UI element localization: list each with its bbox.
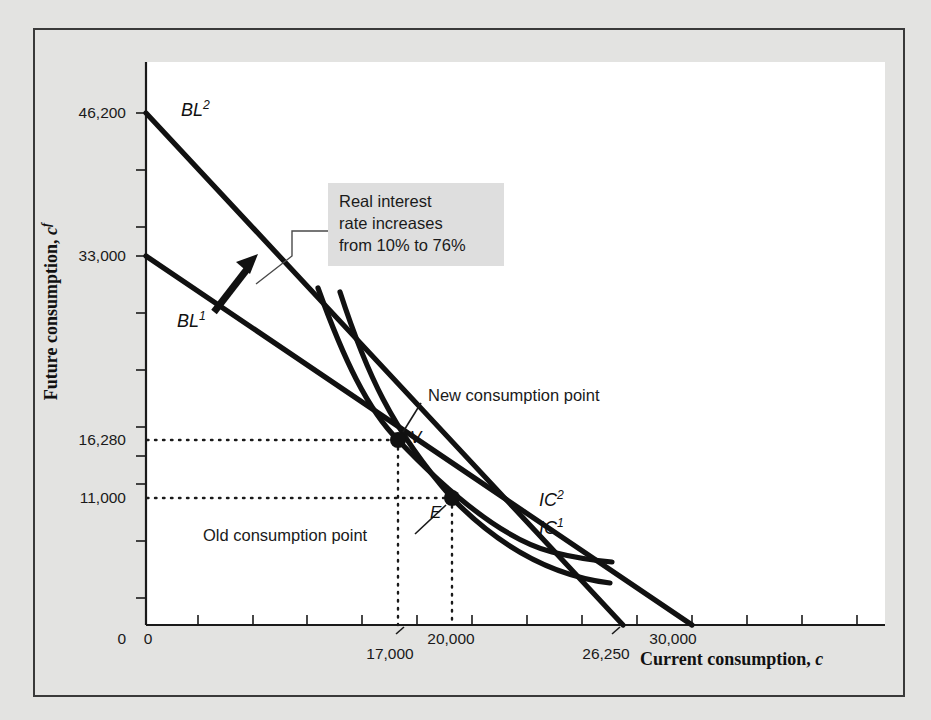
ic1-superscript: 1 <box>557 516 564 530</box>
point-label-v: V <box>410 428 421 448</box>
y-tick-label-33000: 33,000 <box>36 247 126 265</box>
point-marker-e <box>444 490 460 506</box>
annotation-line-3: from 10% to 76% <box>339 235 494 257</box>
caption-old-consumption-point: Old consumption point <box>203 526 367 545</box>
y-axis-ticks <box>136 113 146 598</box>
y-tick-label-16280: 16,280 <box>36 431 126 449</box>
point-label-e: E <box>430 503 441 523</box>
y-axis-title: Future consumption, cf <box>39 202 62 422</box>
point-marker-v <box>390 432 406 448</box>
annotation-line-1: Real interest <box>339 191 494 213</box>
ic2-base: IC <box>539 490 557 510</box>
indifference-curve-label-ic1: IC1 <box>539 516 564 539</box>
figure-container: Future consumption, cf Current consumpti… <box>0 0 931 720</box>
ic2-superscript: 2 <box>557 488 564 502</box>
budget-line-label-bl1: BL1 <box>177 309 206 332</box>
x-axis-title: Current consumption, c <box>640 649 823 670</box>
x-tick-label-0: 0 <box>103 630 193 648</box>
x-tick-label-20000: 20,000 <box>406 630 496 648</box>
y-axis-title-superscript: f <box>39 223 53 227</box>
y-tick-label-46200: 46,200 <box>36 104 126 122</box>
bl2-base: BL <box>181 100 203 120</box>
chart-plot-area <box>0 0 931 720</box>
caption-new-consumption-point: New consumption point <box>428 386 600 405</box>
x-axis-title-text: Current consumption, <box>640 649 815 669</box>
indifference-curve-label-ic2: IC2 <box>539 488 564 511</box>
bl1-base: BL <box>177 311 199 331</box>
bl2-superscript: 2 <box>203 98 210 112</box>
budget-line-label-bl2: BL2 <box>181 98 210 121</box>
annotation-box: Real interest rate increases from 10% to… <box>328 183 504 266</box>
ic1-base: IC <box>539 518 557 538</box>
annotation-line-2: rate increases <box>339 213 494 235</box>
y-axis-title-variable: c <box>41 227 61 235</box>
x-axis-title-variable: c <box>815 649 823 669</box>
y-tick-label-11000: 11,000 <box>36 489 126 507</box>
x-tick-label-30000: 30,000 <box>628 630 718 648</box>
bl1-superscript: 1 <box>199 309 206 323</box>
